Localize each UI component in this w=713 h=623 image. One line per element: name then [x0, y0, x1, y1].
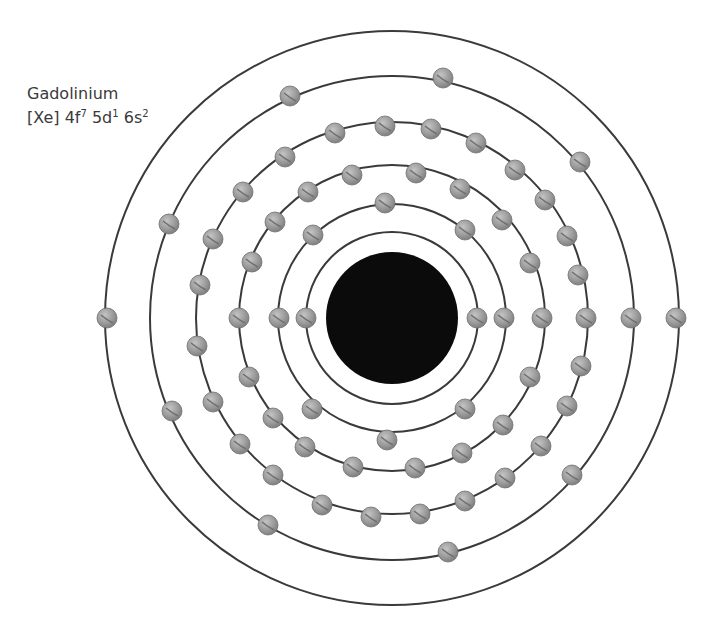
- electron-shell-4: [505, 160, 525, 180]
- electron-shell-4: [375, 116, 395, 136]
- electron-shell-4: [531, 436, 551, 456]
- electron-shell-5: [621, 308, 641, 328]
- electron-shell-4: [203, 229, 223, 249]
- element-name: Gadolinium: [27, 84, 118, 104]
- electron-shell-5: [562, 465, 582, 485]
- electron-shell-4: [535, 190, 555, 210]
- electron-shell-4: [230, 434, 250, 454]
- electron-shell-4: [203, 392, 223, 412]
- electron-shell-3: [406, 163, 426, 183]
- electron-shell-4: [495, 468, 515, 488]
- electron-shell-4: [568, 265, 588, 285]
- electron-shell-5: [570, 152, 590, 172]
- electron-shell-4: [263, 465, 283, 485]
- electron-shell-4: [410, 504, 430, 524]
- electron-shell-3: [242, 252, 262, 272]
- electron-shell-3: [520, 367, 540, 387]
- electron-shell-3: [493, 415, 513, 435]
- electron-shell-3: [405, 458, 425, 478]
- electron-shell-4: [312, 495, 332, 515]
- electron-shell-1: [296, 308, 316, 328]
- electron-shell-3: [452, 443, 472, 463]
- electron-shell-3: [520, 253, 540, 273]
- electron-shell-5: [258, 515, 278, 535]
- electron-shell-3: [229, 308, 249, 328]
- electron-shell-4: [325, 123, 345, 143]
- electron-shell-3: [492, 210, 512, 230]
- electron-shell-4: [421, 119, 441, 139]
- electron-shell-5: [438, 542, 458, 562]
- electron-shell-3: [295, 437, 315, 457]
- electron-shell-2: [303, 225, 323, 245]
- electron-shell-2: [494, 308, 514, 328]
- electron-shell-3: [298, 182, 318, 202]
- electron-shell-2: [455, 399, 475, 419]
- config-exponent: 2: [142, 108, 148, 119]
- electron-shell-4: [275, 147, 295, 167]
- electron-shell-5: [433, 68, 453, 88]
- electron-shell-4: [571, 356, 591, 376]
- electron-shell-3: [263, 408, 283, 428]
- electron-shell-5: [159, 214, 179, 234]
- config-term: [Xe] 4f: [27, 108, 80, 127]
- nucleus: [326, 252, 458, 384]
- electron-shell-4: [361, 507, 381, 527]
- electron-shell-6: [97, 308, 117, 328]
- electron-shell-4: [187, 336, 207, 356]
- electron-shell-3: [342, 165, 362, 185]
- electron-shell-6: [666, 308, 686, 328]
- electron-shell-3: [343, 457, 363, 477]
- electron-shell-4: [557, 226, 577, 246]
- electron-shell-4: [466, 133, 486, 153]
- electron-configuration: [Xe] 4f7 5d1 6s2: [27, 108, 149, 128]
- electron-shell-5: [280, 86, 300, 106]
- electron-shell-2: [455, 220, 475, 240]
- electron-shell-4: [190, 275, 210, 295]
- electron-shell-4: [557, 396, 577, 416]
- electron-shell-1: [467, 308, 487, 328]
- config-term: 6s: [119, 108, 143, 127]
- electron-shell-2: [377, 430, 397, 450]
- electron-shell-3: [450, 179, 470, 199]
- electron-shell-4: [455, 491, 475, 511]
- electron-shell-3: [239, 367, 259, 387]
- electron-shell-4: [233, 182, 253, 202]
- electron-shell-2: [269, 308, 289, 328]
- electron-shell-3: [265, 212, 285, 232]
- electron-shell-2: [302, 399, 322, 419]
- electron-shell-2: [375, 193, 395, 213]
- config-term: 5d: [87, 108, 112, 127]
- electron-shell-3: [532, 308, 552, 328]
- electron-shell-5: [162, 401, 182, 421]
- electron-shell-4: [576, 308, 596, 328]
